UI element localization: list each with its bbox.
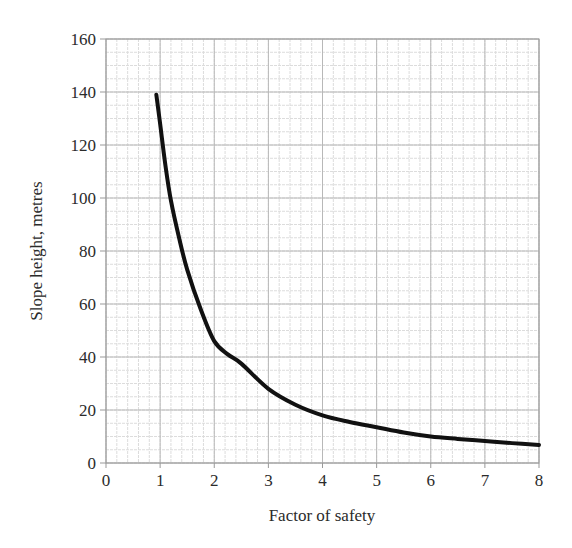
y-tick-label: 40: [79, 348, 96, 367]
x-tick-label: 8: [535, 471, 544, 490]
x-tick-label: 6: [427, 471, 436, 490]
y-tick-label: 120: [71, 136, 97, 155]
y-tick-label: 140: [71, 83, 97, 102]
x-tick-label: 0: [102, 471, 111, 490]
x-tick-label: 5: [372, 471, 381, 490]
y-tick-label: 20: [79, 401, 96, 420]
y-tick-label: 160: [71, 30, 97, 49]
x-tick-label: 2: [210, 471, 219, 490]
y-axis-label: Slope height, metres: [27, 181, 46, 320]
x-tick-label: 3: [264, 471, 273, 490]
x-tick-label: 4: [318, 471, 327, 490]
chart: 012345678 020406080100120140160 Factor o…: [0, 0, 572, 548]
y-tick-label: 100: [71, 189, 97, 208]
x-tick-label: 7: [481, 471, 490, 490]
x-axis-tick-labels: 012345678: [102, 471, 544, 490]
data-curve: [156, 95, 539, 445]
y-tick-label: 80: [79, 242, 96, 261]
x-tick-label: 1: [156, 471, 165, 490]
x-axis-label: Factor of safety: [269, 506, 376, 525]
axis-ticks: [100, 39, 539, 468]
chart-svg: 012345678 020406080100120140160 Factor o…: [0, 0, 572, 548]
y-tick-label: 0: [88, 454, 97, 473]
y-axis-tick-labels: 020406080100120140160: [71, 30, 97, 473]
y-tick-label: 60: [79, 295, 96, 314]
